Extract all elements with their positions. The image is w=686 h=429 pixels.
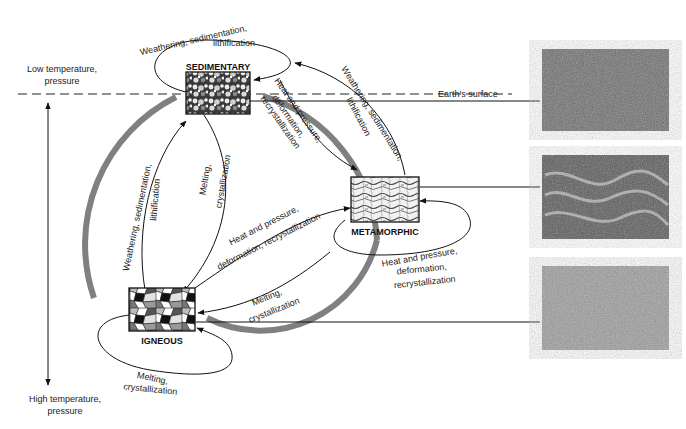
sed-to-ign-label-2: crystallization [213,154,232,209]
meta-loop-label-3: recrystallization [393,274,456,290]
low-temp-label-1: Low temperature, [27,64,97,74]
metamorphic-rock: METAMORPHIC [351,177,419,237]
rock-photos [542,49,669,350]
earths-surface-label: Earth's surface [438,89,498,99]
high-temp-label-2: pressure [47,406,82,416]
igneous-texture-icon [129,288,195,331]
metamorphic-label: METAMORPHIC [351,227,419,237]
ign-to-sed-label-2: lithification [148,178,162,221]
metamorphic-rock-photo [542,155,669,239]
ign-to-sed-arrow: Weathering, sedimentation, lithification [121,121,186,290]
sedimentary-rock: SEDIMENTARY [186,62,251,114]
sed-to-ign-label-1: Melting, [197,163,212,196]
temperature-pressure-axis: Low temperature, pressure High temperatu… [27,64,101,416]
sed-to-meta-arrow: Heat and pressure, deformation, recrysta… [259,76,357,170]
igneous-rock: IGNEOUS [129,288,195,346]
metamorphic-texture-icon [351,177,419,222]
meta-to-sed-label-1: Weathering, sedimentation, [339,64,405,162]
sedimentary-label: SEDIMENTARY [186,62,251,72]
igneous-rock-photo [542,266,669,350]
low-temp-label-2: pressure [44,76,79,86]
rock-cycle-diagram: Low temperature, pressure High temperatu… [0,0,686,429]
sed-loop-label-2: lithification [213,38,255,48]
sedimentary-rock-photo [542,49,669,131]
high-temp-label-1: High temperature, [29,394,101,404]
igneous-label: IGNEOUS [141,336,183,346]
sedimentary-texture-icon [186,72,250,114]
ign-to-meta-arrow: Heat and pressure, deformation, recrysta… [195,203,350,288]
ign-loop-label-2: crystallization [123,381,178,397]
